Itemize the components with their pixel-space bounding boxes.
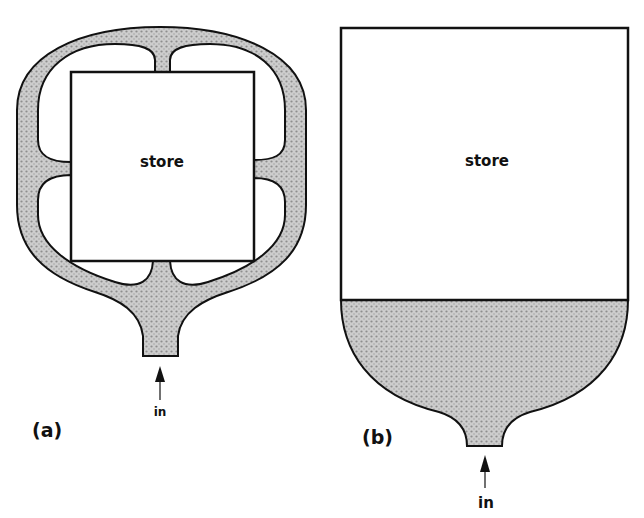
- arrow-up-icon: [155, 366, 165, 382]
- input-label-b: in: [478, 494, 494, 512]
- input-label-a: in: [154, 405, 167, 419]
- diagram-a: store in (a): [17, 27, 306, 441]
- flow-bowl-b: [341, 300, 628, 446]
- arrow-up-icon: [480, 455, 490, 472]
- caption-a: (a): [32, 419, 62, 441]
- diagram-b: store in (b): [341, 28, 628, 512]
- store-flow-diagram: store in (a) store in (b): [0, 0, 644, 518]
- store-label-a: store: [140, 153, 184, 171]
- caption-b: (b): [362, 426, 393, 448]
- store-label-b: store: [465, 152, 509, 170]
